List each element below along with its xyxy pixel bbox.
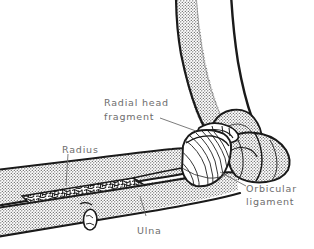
elbow-illustration-figure: Radial head fragment Radius Orbicular li…	[0, 0, 314, 249]
label-radial-head-fragment-line1: Radial head	[104, 97, 169, 108]
label-orbicular-ligament-line1: Orbicular	[246, 183, 297, 194]
label-radial-head-fragment-line2: fragment	[104, 111, 154, 122]
leader-radial-head-fragment	[160, 118, 196, 131]
label-orbicular-ligament-line2: ligament	[246, 196, 294, 207]
anatomy-drawing: Radial head fragment Radius Orbicular li…	[0, 0, 314, 249]
label-radius: Radius	[62, 144, 99, 155]
label-ulna: Ulna	[137, 225, 162, 236]
